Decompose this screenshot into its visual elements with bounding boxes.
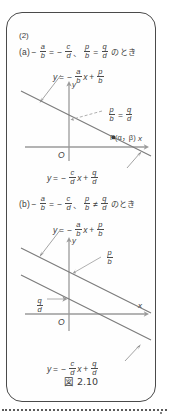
case-b-suffix: のとき bbox=[111, 198, 136, 209]
line-label-plus: + bbox=[83, 364, 88, 374]
dotted-divider bbox=[2, 409, 167, 414]
line-label-minus: − bbox=[61, 173, 66, 183]
line-label-y: y bbox=[47, 364, 51, 374]
frac-den: d bbox=[65, 51, 71, 60]
line-label-y: y bbox=[47, 173, 51, 183]
case-b-comma: 、 bbox=[73, 198, 82, 210]
frac-num: p bbox=[84, 195, 90, 203]
line-label-x: x bbox=[77, 364, 81, 374]
case-b-frac-pb: p b bbox=[84, 195, 90, 212]
y-axis bbox=[66, 81, 71, 161]
x-axis-label-a: x bbox=[137, 134, 143, 143]
case-a-frac-qd: q d bbox=[102, 43, 108, 60]
origin-label-a: O bbox=[58, 150, 65, 160]
case-a-comma: 、 bbox=[73, 46, 82, 58]
case-a-relation: = bbox=[93, 47, 98, 57]
frac-den: d bbox=[65, 203, 71, 212]
parallel-line-upper bbox=[21, 248, 151, 313]
frac-den: b bbox=[84, 203, 90, 212]
case-a-tag: (a) bbox=[19, 47, 30, 57]
parallel-line-lower bbox=[21, 275, 151, 340]
line-label-intercept-frac: q d bbox=[91, 169, 97, 186]
line-label-slope-frac: c d bbox=[69, 169, 75, 186]
case-b-minus-2: − bbox=[57, 199, 62, 209]
line-label-plus: + bbox=[83, 173, 88, 183]
line-label-eq: = bbox=[53, 173, 58, 183]
frac-den: d bbox=[102, 51, 108, 60]
case-b-equals-1: = bbox=[49, 199, 54, 209]
frac-num: a bbox=[40, 195, 46, 203]
x-axis bbox=[25, 311, 149, 316]
case-b-frac-cd: c d bbox=[65, 195, 71, 212]
leader-line-upper bbox=[40, 229, 61, 257]
case-a-frac-ab: a b bbox=[40, 43, 46, 60]
problem-number: (2) bbox=[19, 31, 29, 40]
frac-num: q bbox=[91, 169, 97, 177]
frac-num: c bbox=[70, 360, 76, 368]
frac-num: q bbox=[91, 360, 97, 368]
case-a-equals-1: = bbox=[49, 47, 54, 57]
frac-den: b bbox=[84, 51, 90, 60]
figure-caption: 図 2.10 bbox=[6, 374, 156, 388]
figure-page: (2) (a) − a b = − c d 、 p b = q d bbox=[0, 0, 169, 419]
case-a-frac-pb: p b bbox=[84, 43, 90, 60]
frac-den: d bbox=[69, 177, 75, 186]
origin-label-b: O bbox=[58, 317, 65, 327]
leader-line-lower bbox=[125, 344, 141, 361]
line-label-eq: = bbox=[53, 364, 58, 374]
line-label-x: x bbox=[77, 173, 81, 183]
frac-num: p bbox=[84, 43, 90, 51]
case-a-line2-label: y = − c d x + q d bbox=[47, 169, 99, 186]
frac-num: a bbox=[40, 43, 46, 51]
frac-num: q bbox=[102, 43, 108, 51]
frac-den: d bbox=[91, 177, 97, 186]
frac-num: c bbox=[66, 43, 72, 51]
leader-intercept-pb bbox=[73, 257, 101, 273]
leader-line1 bbox=[40, 75, 61, 103]
case-b-frac-qd: q d bbox=[101, 195, 107, 212]
problem-number-text: (2) bbox=[19, 31, 29, 40]
point-p-marker bbox=[112, 136, 115, 139]
case-b-diagram: O y x bbox=[7, 213, 157, 343]
case-b-relation: ≠ bbox=[93, 199, 98, 209]
figure-card: (2) (a) − a b = − c d 、 p b = q d bbox=[6, 12, 156, 402]
y-axis-label-b: y bbox=[71, 236, 77, 245]
frac-den: b bbox=[40, 51, 46, 60]
line-label-minus: − bbox=[61, 364, 66, 374]
leader-intercept bbox=[71, 111, 103, 121]
case-b-minus-1: − bbox=[32, 199, 37, 209]
y-axis bbox=[66, 237, 71, 331]
case-a-minus-1: − bbox=[32, 47, 37, 57]
leader-line2 bbox=[127, 151, 142, 168]
frac-num: c bbox=[70, 169, 76, 177]
case-b-tag: (b) bbox=[19, 199, 30, 209]
case-b-condition: (b) − a b = − c d 、 p b ≠ q d のとき bbox=[19, 195, 136, 212]
frac-num: q bbox=[101, 195, 107, 203]
frac-den: b bbox=[40, 203, 46, 212]
frac-num: c bbox=[66, 195, 72, 203]
y-axis-label-a: y bbox=[71, 80, 77, 89]
case-a-suffix: のとき bbox=[111, 46, 136, 57]
case-a-diagram: O y x bbox=[7, 61, 157, 171]
case-a-minus-2: − bbox=[57, 47, 62, 57]
case-a-condition: (a) − a b = − c d 、 p b = q d のとき bbox=[19, 43, 136, 60]
frac-den: d bbox=[101, 203, 107, 212]
dotted-divider-tail bbox=[160, 412, 162, 414]
case-a-frac-cd: c d bbox=[65, 43, 71, 60]
case-b-frac-ab: a b bbox=[40, 195, 46, 212]
